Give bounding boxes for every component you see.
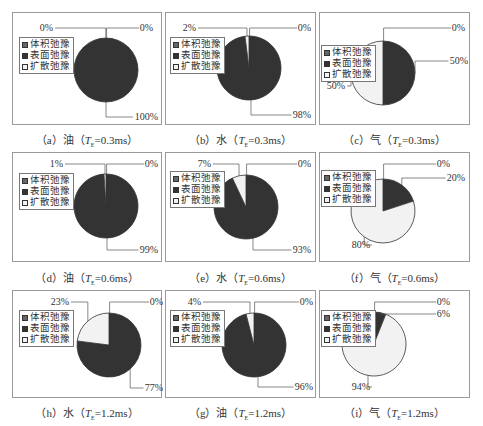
legend-item: 体积弛豫 — [173, 312, 221, 323]
legend-label: 体积弛豫 — [30, 312, 70, 323]
pie-panel: 0%96%4%体积弛豫表面弛豫扩散弛豫 — [165, 290, 316, 398]
surface-percent-label: 20% — [447, 172, 465, 183]
pie-panel: 0%50%50%体积弛豫表面弛豫扩散弛豫 — [319, 12, 470, 125]
legend-item: 扩散弛豫 — [173, 334, 221, 345]
legend-label: 扩散弛豫 — [181, 334, 221, 345]
panel-caption: （h）水（TE=1.2ms） — [12, 404, 162, 421]
volume-percent-label: 0% — [300, 296, 313, 307]
legend-swatch-icon — [22, 326, 28, 332]
legend-label: 表面弛豫 — [332, 58, 372, 69]
legend: 体积弛豫表面弛豫扩散弛豫 — [170, 171, 225, 208]
caption-part: （h）水（ — [35, 407, 85, 419]
volume-percent-label: 0% — [150, 296, 163, 307]
leader-line — [380, 313, 436, 314]
legend-item: 表面弛豫 — [173, 323, 221, 334]
legend-item: 表面弛豫 — [324, 183, 372, 194]
leader-line — [384, 28, 451, 41]
legend-item: 表面弛豫 — [22, 186, 70, 197]
legend-item: 扩散弛豫 — [22, 334, 70, 345]
volume-percent-label: 0% — [298, 22, 311, 33]
legend-label: 体积弛豫 — [332, 312, 372, 323]
pie-chart: 0%93%7% — [166, 153, 317, 263]
volume-percent-label: 0% — [140, 22, 153, 33]
diffusion-percent-label: 1% — [50, 158, 63, 169]
caption-part: （g）油（ — [189, 407, 239, 419]
volume-percent-label: 0% — [437, 158, 450, 169]
leader-line — [415, 61, 449, 73]
surface-percent-label: 77% — [145, 382, 163, 393]
legend: 体积弛豫表面弛豫扩散弛豫 — [170, 37, 225, 74]
leader-line — [255, 302, 299, 313]
legend-label: 扩散弛豫 — [332, 194, 372, 205]
legend-swatch-icon — [324, 72, 330, 78]
legend-label: 体积弛豫 — [332, 172, 372, 183]
leader-line — [107, 28, 139, 38]
legend-swatch-icon — [22, 53, 28, 59]
volume-percent-label: 0% — [452, 22, 465, 33]
legend-label: 扩散弛豫 — [332, 334, 372, 345]
caption-part: （a）油（ — [36, 134, 85, 146]
legend-item: 表面弛豫 — [173, 184, 221, 195]
leader-line — [384, 164, 436, 179]
caption-part: =0.3ms） — [402, 134, 446, 146]
caption-part: （c）气（ — [343, 134, 392, 146]
legend-label: 扩散弛豫 — [30, 197, 70, 208]
legend-swatch-icon — [173, 198, 179, 204]
leader-line — [250, 28, 297, 36]
legend-swatch-icon — [324, 337, 330, 343]
legend-swatch-icon — [324, 197, 330, 203]
pie-panel: 0%77%23%体积弛豫表面弛豫扩散弛豫 — [12, 290, 162, 398]
pie-panel: 0%93%7%体积弛豫表面弛豫扩散弛豫 — [165, 152, 316, 262]
caption-part: =0.6ms） — [95, 272, 139, 284]
leader-line — [258, 377, 293, 387]
legend-swatch-icon — [324, 50, 330, 56]
panel-caption: （b）水（TE=0.3ms） — [165, 131, 316, 148]
legend-swatch-icon — [324, 315, 330, 321]
diffusion-relaxation-slice — [77, 313, 109, 345]
diffusion-percent-label: 23% — [51, 296, 69, 307]
panel-caption: （g）油（TE=1.2ms） — [165, 404, 316, 421]
legend-label: 表面弛豫 — [332, 323, 372, 334]
legend-item: 表面弛豫 — [22, 50, 70, 61]
legend-item: 体积弛豫 — [324, 312, 372, 323]
surface-relaxation-slice — [74, 38, 138, 102]
legend-item: 体积弛豫 — [22, 175, 70, 186]
legend-item: 体积弛豫 — [324, 172, 372, 183]
legend: 体积弛豫表面弛豫扩散弛豫 — [19, 173, 74, 210]
panel-caption: （d）油（TE=0.6ms） — [12, 269, 162, 286]
panel-caption: （e）水（TE=0.6ms） — [165, 269, 316, 286]
diffusion-percent-label: 4% — [188, 296, 201, 307]
legend-item: 体积弛豫 — [324, 47, 372, 58]
legend-swatch-icon — [22, 64, 28, 70]
leader-line — [107, 164, 144, 174]
leader-line — [198, 28, 247, 36]
caption-part: =0.3ms） — [248, 134, 292, 146]
legend-label: 扩散弛豫 — [181, 61, 221, 72]
pie-panel: 0%98%2%体积弛豫表面弛豫扩散弛豫 — [165, 12, 316, 125]
diffusion-percent-label: 7% — [198, 158, 211, 169]
surface-percent-label: 93% — [293, 244, 311, 255]
leader-line — [106, 102, 133, 117]
caption-part: =0.6ms） — [248, 272, 292, 284]
legend-label: 扩散弛豫 — [30, 334, 70, 345]
volume-percent-label: 0% — [437, 296, 450, 307]
legend-label: 体积弛豫 — [181, 312, 221, 323]
legend-swatch-icon — [22, 337, 28, 343]
caption-part: =1.2ms） — [248, 407, 292, 419]
panel-caption: （f）气（TE=0.6ms） — [319, 269, 470, 286]
diffusion-percent-label: 2% — [183, 22, 196, 33]
legend-item: 扩散弛豫 — [324, 194, 372, 205]
legend-swatch-icon — [173, 176, 179, 182]
legend-label: 表面弛豫 — [181, 323, 221, 334]
caption-part: =1.2ms） — [95, 407, 139, 419]
legend-label: 表面弛豫 — [30, 50, 70, 61]
legend-label: 表面弛豫 — [30, 323, 70, 334]
legend-swatch-icon — [324, 61, 330, 67]
legend-item: 体积弛豫 — [173, 173, 221, 184]
caption-part: （i）气（ — [344, 407, 391, 419]
legend-label: 体积弛豫 — [181, 173, 221, 184]
volume-percent-label: 0% — [298, 158, 311, 169]
legend: 体积弛豫表面弛豫扩散弛豫 — [321, 45, 376, 82]
legend-label: 体积弛豫 — [30, 39, 70, 50]
pie-panel: 0%99%1%体积弛豫表面弛豫扩散弛豫 — [12, 152, 162, 262]
